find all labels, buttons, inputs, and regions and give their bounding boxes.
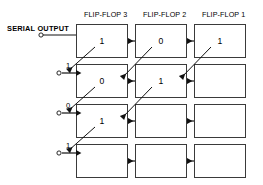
column-header-flip-flop-3: FLIP-FLOP 3 — [84, 11, 127, 18]
cell-value-r3c3: 1 — [76, 104, 128, 138]
cell-value-text: 1 — [159, 76, 164, 86]
cell-value-text: 1 — [100, 36, 105, 46]
cell-value-r1c3: 1 — [76, 24, 128, 58]
cell-value-text: 0 — [100, 76, 105, 86]
cell-value-text: 1 — [218, 36, 223, 46]
cell-value-r1c2: 0 — [135, 24, 187, 58]
output-bit-label-row4: 1 — [66, 142, 70, 150]
output-bit-label-row2: 1 — [66, 62, 70, 70]
shift-register-diagram: FLIP-FLOP 3 FLIP-FLOP 2 FLIP-FLOP 1 SERI… — [0, 0, 263, 185]
cell-value-r2c2: 1 — [135, 64, 187, 98]
cell-value-r4c3 — [76, 144, 128, 178]
cell-value-text: 1 — [100, 116, 105, 126]
serial-output-wire — [39, 33, 76, 37]
column-header-flip-flop-2: FLIP-FLOP 2 — [143, 11, 186, 18]
cell-value-r2c3: 0 — [76, 64, 128, 98]
cell-value-r3c2 — [135, 104, 187, 138]
output-terminal-row2 — [57, 71, 76, 75]
cell-value-r4c1 — [194, 144, 246, 178]
cell-value-r3c1 — [194, 104, 246, 138]
output-bit-label-row3: 0 — [66, 102, 70, 110]
cell-value-r1c1: 1 — [194, 24, 246, 58]
stage-connector-arrows — [128, 41, 194, 161]
cell-value-r2c1 — [194, 64, 246, 98]
output-terminal-row3 — [57, 111, 76, 115]
cell-value-r4c2 — [135, 144, 187, 178]
output-terminal-row4 — [57, 151, 76, 155]
column-header-flip-flop-1: FLIP-FLOP 1 — [202, 11, 245, 18]
cell-value-text: 0 — [159, 36, 164, 46]
serial-output-label: SERIAL OUTPUT — [7, 25, 69, 32]
